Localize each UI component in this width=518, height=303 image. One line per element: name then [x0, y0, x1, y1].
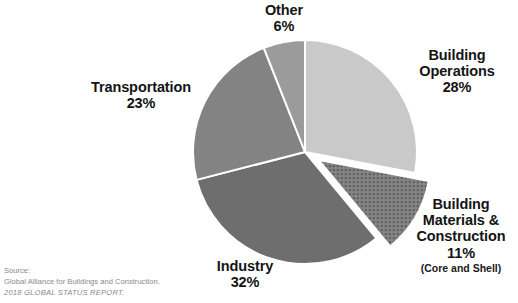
source-attribution: Source: Global Alliance for Buildings an… [4, 266, 234, 298]
label-line-1: Transportation [78, 79, 204, 95]
slice-label-building-operations: Building Operations 28% [398, 47, 516, 96]
label-line-1: Building [398, 47, 516, 63]
label-value: 23% [78, 95, 204, 111]
source-line-2: Global Alliance for Buildings and Constr… [4, 277, 234, 288]
label-line-2: Operations [398, 63, 516, 79]
label-value: 6% [232, 18, 336, 34]
label-line-3: Construction [404, 228, 518, 244]
label-note-core-and-shell: (Core and Shell) [404, 263, 518, 275]
label-value: 28% [398, 79, 516, 95]
label-value: 11% [404, 245, 518, 261]
label-line-1: Building [404, 196, 518, 212]
label-line-2: Materials & [404, 212, 518, 228]
source-line-3: 2018 GLOBAL STATUS REPORT. [4, 288, 234, 299]
pie-chart-figure: Building Operations 28% Building Materia… [0, 0, 518, 303]
source-line-1: Source: [4, 266, 234, 277]
slice-label-other: Other 6% [232, 2, 336, 34]
label-line-1: Other [232, 2, 336, 18]
slice-label-building-materials: Building Materials & Construction 11% (C… [404, 196, 518, 275]
slice-label-transportation: Transportation 23% [78, 79, 204, 111]
